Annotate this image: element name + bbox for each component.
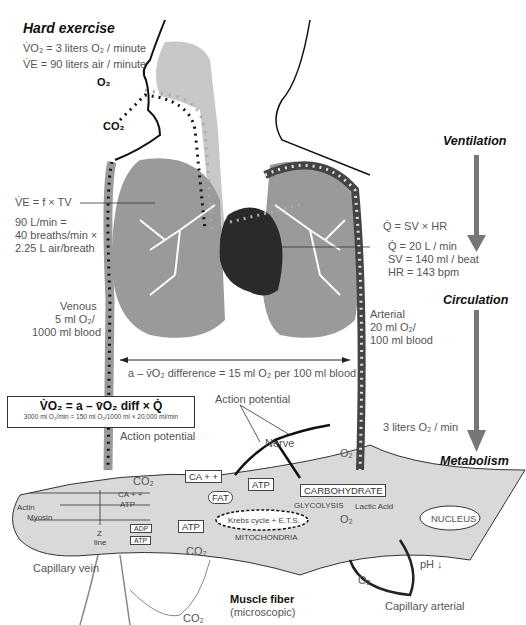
arterial-blood: 100 ml blood <box>370 334 433 347</box>
atp-top-box: ATP <box>248 478 274 491</box>
capillary-vein-label: Capillary vein <box>33 562 99 575</box>
carbohydrate-box: CARBOHYDRATE <box>300 484 386 497</box>
co2-mito-label: CO₂ <box>186 545 207 558</box>
neck-profile <box>276 20 370 175</box>
muscle-fiber-title: Muscle fiber <box>230 593 294 606</box>
venous-label: Venous <box>60 300 97 313</box>
left-lung <box>112 158 225 338</box>
fick-calculation: 3000 ml O₂/min = 150 ml O₂/1000 ml × 20,… <box>8 413 194 420</box>
arterial-o2: 20 ml O₂/ <box>370 321 416 334</box>
z-line-label-2: line <box>94 538 106 547</box>
nucleus-label: NUCLEUS <box>431 512 476 525</box>
co2-bottom-label: CO₂ <box>183 612 204 625</box>
adp-box: ADP <box>130 524 152 533</box>
stage-circulation: Circulation <box>443 293 508 307</box>
q-formula: Q̇ = SV × HR <box>383 220 447 233</box>
q-value: Q̇ = 20 L / min <box>388 240 457 253</box>
ph-label: pH ↓ <box>420 558 443 571</box>
venous-o2: 5 ml O₂/ <box>55 313 95 326</box>
atp-box: ATP <box>130 536 151 545</box>
ve-calc-1: 90 L/min = <box>15 216 67 229</box>
muscle-fiber-subtitle: (microscopic) <box>230 606 295 619</box>
action-potential-top: Action potential <box>215 393 290 406</box>
stage-ventilation: Ventilation <box>443 134 506 148</box>
ve-formula: V̇E = f × TV <box>15 196 72 209</box>
stage-arrow-shaft-2 <box>474 310 479 430</box>
ca-inner-label: CA + + <box>118 490 142 499</box>
sv-value: SV = 140 ml / beat <box>388 253 479 266</box>
glycolysis-label: GLYCOLYSIS <box>294 501 344 510</box>
o2-capillary-label: O₂ <box>358 574 371 587</box>
ve-label: V̇E = 90 liters air / minute <box>23 58 146 71</box>
capillary-arterial-label: Capillary arterial <box>385 600 464 613</box>
co2-top-label: CO₂ <box>133 475 154 488</box>
title-hard-exercise: Hard exercise <box>23 20 115 36</box>
ve-calc-2: 40 breaths/min × <box>15 229 97 242</box>
stage-metabolism: Metabolism <box>440 454 509 468</box>
heart <box>220 208 283 296</box>
co2-bottom-path <box>130 560 210 616</box>
venous-blood: 1000 ml blood <box>32 326 101 339</box>
atp-left-box: ATP <box>178 520 204 533</box>
krebs-label: Krebs cycle + E.T.S. <box>228 516 300 525</box>
vo2-label: V̇O₂ = 3 liters O₂ / minute <box>23 42 146 55</box>
o2-mito-label: O₂ <box>340 513 353 526</box>
actin-label: Actin <box>17 503 35 512</box>
fat-cloud: FAT <box>208 491 233 504</box>
lactic-acid-label: Lactic Acid <box>355 502 393 511</box>
nerve-label: Nerve <box>265 437 294 450</box>
arterial-label: Arterial <box>370 308 405 321</box>
mitochondria-label: MITOCHONDRIA <box>235 533 298 542</box>
atp-inner-label: ATP <box>120 500 135 509</box>
ve-calc-3: 2.25 L air/breath <box>15 242 95 255</box>
action-potential-left: Action potential <box>120 430 195 443</box>
hr-value: HR = 143 bpm <box>388 266 459 279</box>
stage-arrow-shaft-1 <box>474 155 479 235</box>
o2-top-label: O₂ <box>340 447 353 460</box>
myosin-label: Myosin <box>27 513 52 522</box>
co2-out-label: CO₂ <box>103 120 124 133</box>
avo2-difference: a – v̄O₂ difference = 15 ml O₂ per 100 m… <box>128 367 356 380</box>
face-profile <box>115 20 165 160</box>
o2-delivery: 3 liters O₂ / min <box>383 421 458 434</box>
fick-equation-box: V̇O₂ = a – v̄O₂ diff × Q̇ 3000 ml O₂/min… <box>7 396 195 428</box>
o2-in-label: O₂ <box>97 76 110 89</box>
z-line-label-1: Z <box>97 529 102 538</box>
ca-box: CA + + <box>185 470 222 483</box>
fick-equation: V̇O₂ = a – v̄O₂ diff × Q̇ <box>8 399 194 413</box>
